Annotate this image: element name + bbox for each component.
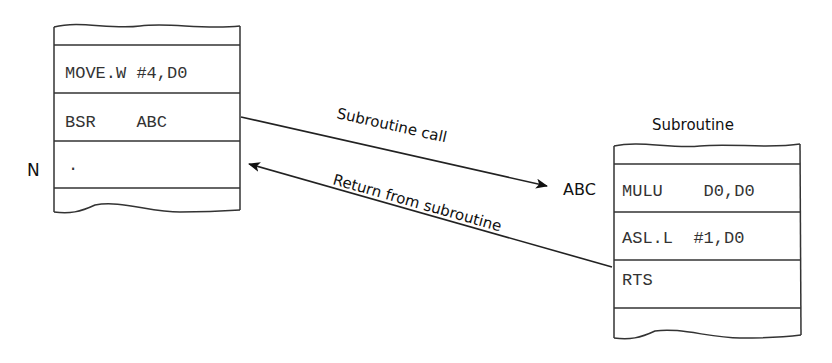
top-break-edge bbox=[614, 144, 800, 147]
main-row-return-point: . bbox=[68, 156, 78, 175]
bottom-break-edge bbox=[54, 204, 240, 213]
main-row-move: MOVE.W #4,D0 bbox=[65, 64, 187, 83]
top-break-edge bbox=[54, 24, 240, 27]
sub-row-rts: RTS bbox=[622, 271, 653, 290]
sub-row-asl: ASL.L #1,D0 bbox=[622, 229, 744, 248]
bottom-break-edge bbox=[614, 330, 801, 339]
call-label: Subroutine call bbox=[335, 104, 449, 146]
entry-label-abc: ABC bbox=[563, 180, 596, 199]
return-label: Return from subroutine bbox=[331, 171, 504, 236]
sub-row-mulu: MULU D0,D0 bbox=[622, 182, 755, 201]
subroutine-diagram: MOVE.W #4,D0 BSR ABC . N Subroutine call… bbox=[0, 0, 832, 363]
main-row-bsr: BSR ABC bbox=[65, 113, 167, 132]
subroutine-title: Subroutine bbox=[652, 116, 734, 134]
label-n: N bbox=[27, 160, 40, 180]
